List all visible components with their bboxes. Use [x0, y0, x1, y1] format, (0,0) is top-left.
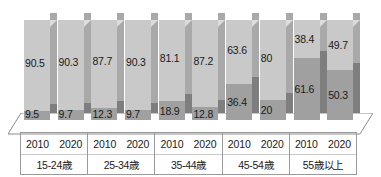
label-year-cell: 2020	[189, 133, 222, 154]
label-year-row: 20102020	[290, 133, 356, 155]
bar-top-cap	[125, 13, 158, 20]
label-year-cell: 2010	[21, 133, 54, 154]
label-group: 2010202015-24歳	[21, 133, 88, 174]
label-year-cell: 2010	[88, 133, 121, 154]
bar-column	[327, 20, 353, 120]
label-group: 2010202025-34歳	[88, 133, 155, 174]
bar-side-face-lower	[151, 103, 158, 113]
bar-column	[192, 20, 218, 120]
bar-value-label-upper: 90.3	[59, 57, 79, 68]
bar-side-face-lower	[117, 101, 124, 113]
stacked-bar-chart: 90.59.590.39.787.712.390.39.781.118.987.…	[0, 0, 381, 177]
bar-value-label-lower: 36.4	[227, 97, 247, 108]
bar-column	[58, 20, 84, 120]
label-year-row: 20102020	[21, 133, 87, 155]
bar-value-label-upper: 63.6	[227, 45, 247, 56]
bar-value-label-upper: 90.3	[126, 57, 146, 68]
bar-column	[24, 20, 50, 120]
label-year-cell: 2010	[290, 133, 323, 154]
bar-top-cap	[192, 13, 225, 20]
label-group: 2010202035-44歳	[155, 133, 222, 174]
label-year-cell: 2020	[256, 133, 289, 154]
bar-top-cap	[260, 13, 293, 20]
bar-value-label-upper: 87.2	[193, 56, 213, 67]
bar-value-label-upper: 90.5	[25, 58, 45, 69]
bar-value-label-lower: 12.3	[92, 109, 112, 120]
label-group: 2010202045-54歳	[223, 133, 290, 174]
bar-value-label-upper: 80	[261, 53, 272, 64]
bar-top-cap	[327, 13, 360, 20]
label-year-cell: 2010	[155, 133, 188, 154]
bar-top-cap	[91, 13, 124, 20]
bar-side-face-lower	[286, 93, 293, 113]
bar-column	[91, 20, 117, 120]
bar-value-label-lower: 20	[261, 105, 272, 116]
bar-top-cap	[24, 13, 57, 20]
bar-side-face-lower	[84, 103, 91, 113]
bar-value-label-lower: 61.6	[295, 84, 315, 95]
bar-value-label-upper: 38.4	[295, 34, 315, 45]
bar-value-label-lower: 9.7	[126, 109, 140, 120]
label-year-row: 20102020	[155, 133, 221, 155]
bar-top-cap	[58, 13, 91, 20]
bar-top-cap	[294, 13, 327, 20]
label-group-name: 35-44歳	[155, 155, 221, 174]
label-group-name: 45-54歳	[223, 155, 289, 174]
label-year-cell: 2020	[323, 133, 356, 154]
bar-side-face-lower	[218, 100, 225, 113]
label-year-cell: 2010	[223, 133, 256, 154]
bar-value-label-lower: 9.5	[25, 109, 39, 120]
bar-side-face-lower	[185, 94, 192, 113]
label-year-cell: 2020	[54, 133, 87, 154]
label-year-row: 20102020	[88, 133, 154, 155]
bar-value-label-lower: 50.3	[328, 90, 348, 101]
category-label-table: 2010202015-24歳2010202025-34歳2010202035-4…	[20, 132, 357, 175]
bar-column	[125, 20, 151, 120]
bar-value-label-lower: 9.7	[59, 109, 73, 120]
label-group-name: 25-34歳	[88, 155, 154, 174]
bar-side-face-lower	[252, 77, 259, 113]
label-group-name: 15-24歳	[21, 155, 87, 174]
bar-top-cap	[226, 13, 259, 20]
bar-value-label-lower: 18.9	[160, 106, 180, 117]
bar-side-face-lower	[353, 63, 360, 113]
label-year-row: 20102020	[223, 133, 289, 155]
bar-side-face-lower	[50, 104, 57, 114]
bar-value-label-upper: 49.7	[328, 40, 348, 51]
bar-value-label-lower: 12.8	[193, 109, 213, 120]
bar-side-face-lower	[320, 51, 327, 113]
bar-top-cap	[159, 13, 192, 20]
label-group-name: 55歳以上	[290, 155, 356, 174]
bar-value-label-upper: 87.7	[92, 56, 112, 67]
bar-value-label-upper: 81.1	[160, 53, 180, 64]
label-year-cell: 2020	[121, 133, 154, 154]
label-group: 2010202055歳以上	[290, 133, 356, 174]
bars-area: 90.59.590.39.787.712.390.39.781.118.987.…	[0, 0, 381, 135]
